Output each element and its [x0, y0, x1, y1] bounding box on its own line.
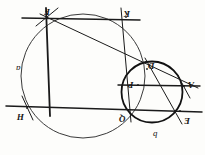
circles-group: [21, 14, 183, 138]
line-KQ: [121, 8, 131, 122]
small-circle-label: b: [153, 130, 158, 139]
point-label-e: E: [184, 116, 190, 125]
point-label-k: K: [124, 9, 130, 18]
point-e: [179, 110, 181, 112]
geometry-figure: FKDPAHQEab: [0, 0, 205, 155]
point-label-d: D: [148, 61, 155, 70]
figure-canvas: [0, 0, 205, 155]
point-q: [127, 109, 129, 111]
point-label-q: Q: [119, 114, 126, 123]
point-label-a: A: [188, 80, 194, 89]
point-label-h: H: [17, 112, 24, 121]
point-label-f: F: [44, 7, 50, 16]
lines-group: [6, 8, 202, 124]
point-p: [137, 84, 139, 86]
point-h: [26, 107, 28, 109]
point-a: [183, 85, 185, 87]
point-label-p: P: [128, 80, 134, 89]
big-circle-label: a: [16, 64, 21, 73]
